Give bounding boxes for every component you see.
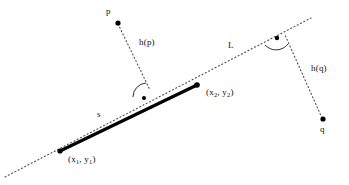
endpoint-1-close: ): [92, 154, 95, 164]
line-L-dotted: [5, 18, 311, 177]
geometry-figure: [0, 0, 349, 185]
height-hq-dotted: [285, 35, 322, 118]
label-segment-s: s: [97, 110, 101, 119]
right-angle-arc-p: [133, 83, 146, 97]
label-point-q: q: [320, 125, 325, 134]
endpoint-2-close: ): [230, 87, 233, 97]
endpoint-2-mid: , y: [217, 87, 227, 97]
point-p-dot: [115, 20, 120, 25]
endpoint-2-dot: [194, 82, 200, 88]
endpoint-2-sub-y: 2: [227, 91, 230, 98]
label-point-p: p: [106, 7, 111, 16]
endpoint-1-mid: , y: [79, 154, 89, 164]
right-angle-dot-p: [142, 96, 146, 100]
endpoint-1-open: (x: [68, 154, 76, 164]
label-line-L: L: [228, 41, 234, 50]
label-height-hq: h(q): [311, 64, 327, 73]
endpoint-1-dot: [57, 148, 62, 153]
endpoint-1-sub-y: 1: [89, 158, 92, 165]
label-endpoint-1: (x1, y1): [68, 155, 96, 164]
height-hp-dotted: [118, 24, 150, 90]
label-height-hp: h(p): [139, 38, 155, 47]
right-angle-arc-q: [265, 44, 288, 50]
label-endpoint-2: (x2, y2): [206, 88, 234, 97]
right-angle-dot-q: [275, 36, 279, 40]
segment-s: [60, 85, 197, 151]
point-q-dot: [320, 116, 325, 121]
endpoint-1-sub-x: 1: [76, 158, 79, 165]
endpoint-2-open: (x: [206, 87, 214, 97]
endpoint-2-sub-x: 2: [214, 91, 217, 98]
